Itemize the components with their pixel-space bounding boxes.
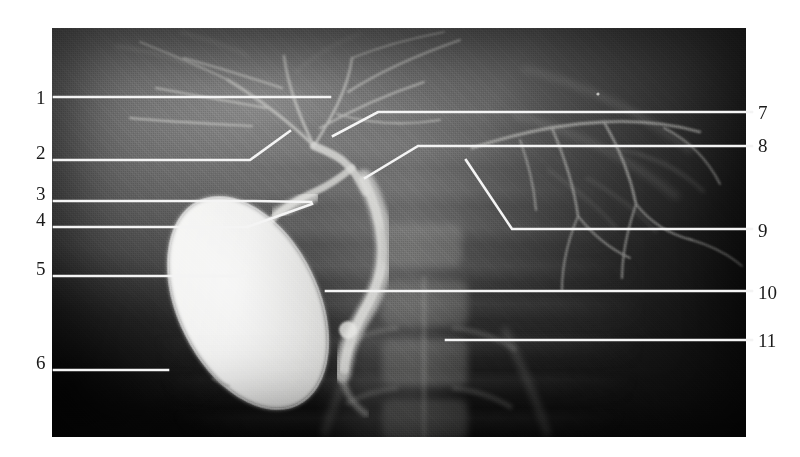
label-1: 1 [36,88,46,107]
label-6: 6 [36,353,46,372]
label-4: 4 [36,210,46,229]
label-2: 2 [36,143,46,162]
vignette-layer [52,28,746,437]
label-10: 10 [758,283,777,302]
label-11: 11 [758,331,776,350]
label-3: 3 [36,184,46,203]
radiograph-plate [52,28,746,437]
label-8: 8 [758,136,768,155]
label-5: 5 [36,259,46,278]
figure-container: 1 2 3 4 5 6 7 8 9 10 11 [0,0,800,457]
label-7: 7 [758,103,768,122]
label-9: 9 [758,221,768,240]
